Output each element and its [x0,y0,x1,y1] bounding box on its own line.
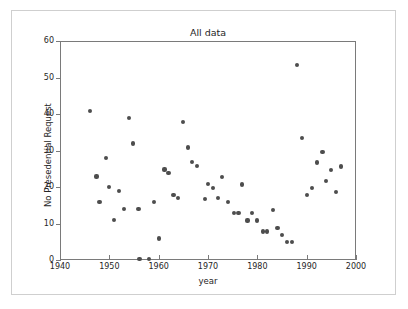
x-tick-label: 2000 [336,262,376,271]
x-tick-label: 1950 [89,262,129,271]
y-tick-mark [56,187,61,188]
x-tick-label: 1990 [287,262,327,271]
y-tick-mark [56,114,61,115]
y-tick-label: 60 [34,36,54,45]
figure-canvas: All data 1940195019601970198019902000010… [0,0,408,309]
x-tick-mark [208,255,209,260]
y-tick-mark [56,224,61,225]
y-tick-label: 0 [34,255,54,264]
x-tick-label: 1970 [188,262,228,271]
x-tick-mark [307,255,308,260]
x-tick-label: 1960 [139,262,179,271]
y-axis-label: No Presedential Request [43,60,53,250]
x-axis-label: year [60,276,356,286]
x-tick-mark [159,255,160,260]
y-tick-mark [56,78,61,79]
y-tick-mark [56,260,61,261]
y-tick-mark [56,151,61,152]
x-tick-mark [356,255,357,260]
y-tick-mark [56,41,61,42]
x-tick-mark [257,255,258,260]
chart-title: All data [60,27,356,39]
plot-area-wrapper: All data 1940195019601970198019902000010… [0,0,408,309]
x-tick-mark [109,255,110,260]
x-tick-label: 1980 [237,262,277,271]
axes-frame [60,41,356,260]
